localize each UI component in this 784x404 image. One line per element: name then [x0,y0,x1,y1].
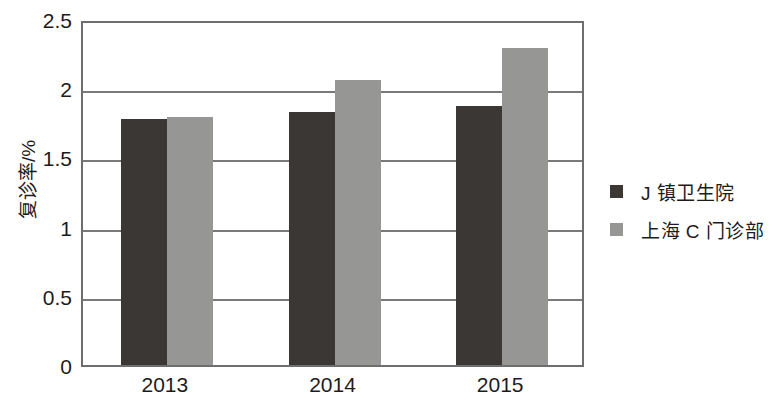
legend-item[interactable]: J 镇卫生院 [610,172,782,210]
bar [456,106,502,365]
x-tick-label: 2015 [440,372,560,397]
bar [335,80,381,365]
y-tick-label: 1 [12,218,72,239]
x-tick-label: 2013 [105,372,225,397]
y-tick-label: 0.5 [12,287,72,308]
legend-label: J 镇卫生院 [641,178,735,205]
legend-swatch-icon [610,223,623,236]
y-tick-label: 2 [12,79,72,100]
bar [167,117,213,365]
bar-chart-figure: 复诊率/% 00.511.522.5 201320142015 J 镇卫生院上海… [0,0,784,404]
legend-label: 上海 C 门诊部 [641,216,764,243]
chart-legend: J 镇卫生院上海 C 门诊部 [610,172,782,248]
x-axis-tick-labels: 201320142015 [81,372,584,402]
y-tick-label: 0 [12,356,72,377]
bar [502,48,548,365]
plot-area [81,21,584,367]
legend-swatch-icon [610,185,623,198]
y-tick-label: 2.5 [12,10,72,31]
y-tick-label: 1.5 [12,148,72,169]
legend-item[interactable]: 上海 C 门诊部 [610,210,782,248]
x-tick-label: 2014 [273,372,393,397]
bar [121,119,167,365]
bar [289,112,335,365]
y-axis-tick-labels: 00.511.522.5 [8,0,72,404]
